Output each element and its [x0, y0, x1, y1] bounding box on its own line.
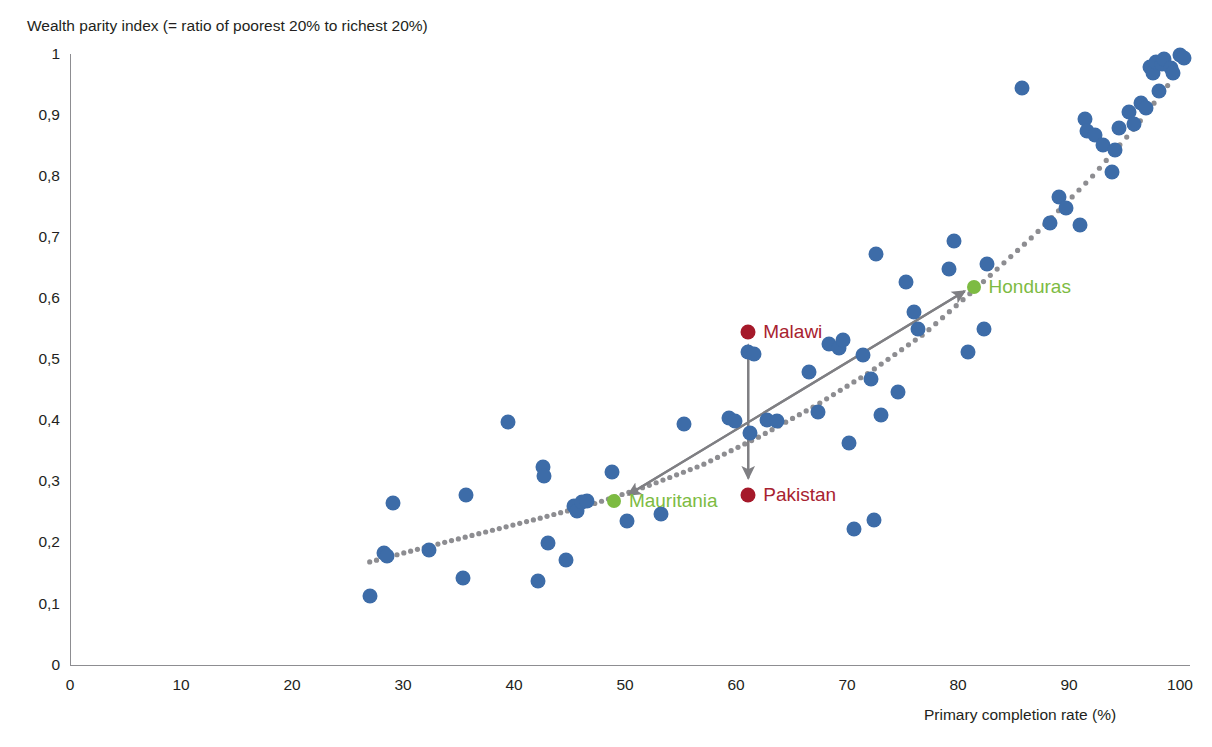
- trendline-dot: [797, 412, 802, 417]
- scatter-point: [891, 385, 906, 400]
- trendline-dot: [913, 337, 918, 342]
- trendline-dot: [517, 521, 522, 526]
- scatter-point: [727, 413, 742, 428]
- trendline-dot: [619, 492, 624, 497]
- trendline-dot: [1022, 242, 1027, 247]
- trendline-dot: [1035, 229, 1040, 234]
- scatter-point: [536, 468, 551, 483]
- trendline-dot: [892, 352, 897, 357]
- trendline-dot: [824, 396, 829, 401]
- trendline-dot: [599, 499, 604, 504]
- trendline-dot: [844, 384, 849, 389]
- x-tick-label: 10: [172, 676, 189, 694]
- annotation-label-mauritania: Mauritania: [629, 490, 718, 512]
- scatter-point: [868, 247, 883, 262]
- trendline-dot: [906, 342, 911, 347]
- scatter-point: [604, 464, 619, 479]
- scatter-point: [362, 588, 377, 603]
- y-tick-label: 0: [12, 656, 60, 674]
- scatter-point: [967, 280, 981, 294]
- trendline-dot: [885, 357, 890, 362]
- trendline-dot: [763, 431, 768, 436]
- annotation-marker-malawi: [741, 324, 756, 339]
- trendline-dot: [660, 478, 665, 483]
- scatter-point: [559, 553, 574, 568]
- x-tick-label: 30: [394, 676, 411, 694]
- scatter-point: [846, 521, 861, 536]
- scatter-point: [976, 322, 991, 337]
- chart-page: Wealth parity index (= ratio of poorest …: [0, 0, 1212, 747]
- scatter-point: [746, 346, 761, 361]
- trendline-dot: [415, 547, 420, 552]
- scatter-point: [802, 364, 817, 379]
- trendline-dot: [490, 528, 495, 533]
- trendline-dot: [463, 535, 468, 540]
- trendline-dot: [483, 529, 488, 534]
- x-tick-label: 100: [1167, 676, 1193, 694]
- trendline-dot: [1097, 166, 1102, 171]
- annotation-label-malawi: Malawi: [763, 321, 822, 343]
- trendline-dot: [497, 526, 502, 531]
- trendline-dot: [667, 475, 672, 480]
- trendline-dot: [394, 552, 399, 557]
- trendline-dot: [1029, 235, 1034, 240]
- scatter-point: [1107, 142, 1122, 157]
- trendline-dot: [729, 448, 734, 453]
- scatter-point: [946, 233, 961, 248]
- x-tick-label: 70: [838, 676, 855, 694]
- scatter-point: [531, 573, 546, 588]
- scatter-point: [866, 512, 881, 527]
- scatter-point: [676, 417, 691, 432]
- scatter-point: [1177, 51, 1192, 66]
- trendline-dot: [1090, 173, 1095, 178]
- trendline-dot: [1015, 248, 1020, 253]
- trendline-dot: [531, 517, 536, 522]
- x-axis-line: [70, 665, 1190, 666]
- trendline-dot: [790, 416, 795, 421]
- scatter-point: [811, 405, 826, 420]
- trendline-dot: [708, 458, 713, 463]
- annotation-label-pakistan: Pakistan: [763, 484, 836, 506]
- scatter-point: [380, 549, 395, 564]
- scatter-point: [1058, 201, 1073, 216]
- trendline-dot: [476, 531, 481, 536]
- scatter-point: [459, 488, 474, 503]
- x-tick-label: 0: [66, 676, 75, 694]
- trendline-dot: [538, 516, 543, 521]
- trendline-dot: [469, 533, 474, 538]
- trendline-dot: [449, 538, 454, 543]
- scatter-point: [620, 514, 635, 529]
- scatter-point: [1111, 121, 1126, 136]
- y-tick-label: 0,3: [12, 472, 60, 490]
- trendline-dot: [722, 451, 727, 456]
- trendline-dot: [558, 510, 563, 515]
- trendline-dot: [1001, 260, 1006, 265]
- trendline-dot: [947, 309, 952, 314]
- trendline-dot: [401, 550, 406, 555]
- trendline-dot: [858, 375, 863, 380]
- plot-area: 00,10,20,30,40,50,60,70,80,91 0102030405…: [0, 0, 1212, 747]
- trendline-dot: [1104, 158, 1109, 163]
- scatter-point: [1151, 84, 1166, 99]
- scatter-point: [743, 426, 758, 441]
- trendline-dot: [940, 315, 945, 320]
- annotation-marker-pakistan: [741, 487, 756, 502]
- trendline-dot: [899, 347, 904, 352]
- trendline-dot: [442, 540, 447, 545]
- scatter-point: [421, 543, 436, 558]
- trendline-dot: [510, 522, 515, 527]
- scatter-point: [864, 372, 879, 387]
- y-tick-label: 0,6: [12, 289, 60, 307]
- trendline-dot: [551, 512, 556, 517]
- x-tick-label: 20: [283, 676, 300, 694]
- y-tick-label: 0,4: [12, 411, 60, 429]
- y-tick-label: 0,2: [12, 533, 60, 551]
- y-tick-label: 0,9: [12, 106, 60, 124]
- scatter-point: [1105, 165, 1120, 180]
- trendline-dot: [981, 279, 986, 284]
- scatter-point: [842, 435, 857, 450]
- trendline-dot: [804, 408, 809, 413]
- scatter-point: [455, 571, 470, 586]
- trendline-dot: [960, 297, 965, 302]
- y-tick-label: 0,5: [12, 350, 60, 368]
